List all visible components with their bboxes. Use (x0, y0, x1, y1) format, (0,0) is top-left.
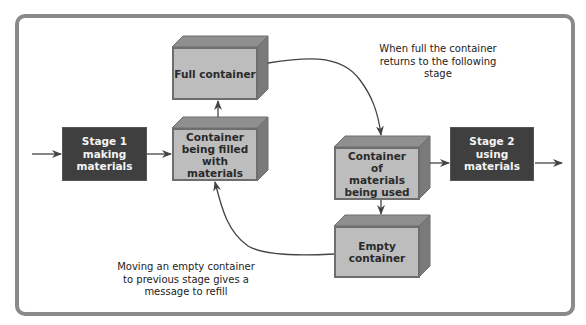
stage-1-label: Stage 1 making materials (77, 135, 133, 173)
full-to-inuse-arrow (268, 59, 381, 135)
full-return-annotation: When full the container returns to the f… (378, 43, 498, 81)
stage-2-node: Stage 2 using materials (450, 127, 534, 181)
empty-refill-annotation: Moving an empty container to previous st… (115, 261, 257, 299)
in-use-container-label: Container of materials being used (342, 150, 412, 198)
filling-container-label: Container being filled with materials (178, 131, 252, 179)
stage-2-label: Stage 2 using materials (464, 135, 520, 173)
empty-container-label: Empty container (336, 240, 418, 264)
full-container-label: Full container (174, 68, 255, 80)
empty-to-filling-arrow (215, 182, 334, 255)
stage-1-node: Stage 1 making materials (62, 127, 147, 181)
